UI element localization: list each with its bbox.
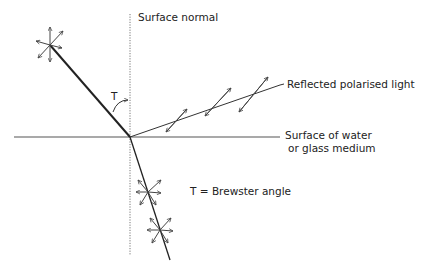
brewster-angle-legend: T = Brewster angle	[189, 185, 291, 197]
incident-ray	[50, 45, 130, 137]
angle-symbol-label: T	[110, 90, 118, 102]
reflected-light-label: Reflected polarised light	[287, 78, 415, 90]
brewster-angle-diagram: Surface normal T Reflected polarised lig…	[0, 0, 426, 276]
surface-normal-label: Surface normal	[138, 11, 218, 23]
surface-medium-label-line2: or glass medium	[288, 142, 376, 154]
refracted-ray	[130, 137, 170, 260]
surface-medium-label-line1: Surface of water	[285, 129, 372, 141]
reflected-label-leader	[280, 84, 284, 85]
reflected-polarisation-arrows-icon	[166, 77, 268, 132]
reflected-ray	[130, 85, 280, 137]
refracted-polarisation-star-icon	[147, 218, 173, 243]
refracted-polarisation-star-icon	[136, 180, 161, 205]
